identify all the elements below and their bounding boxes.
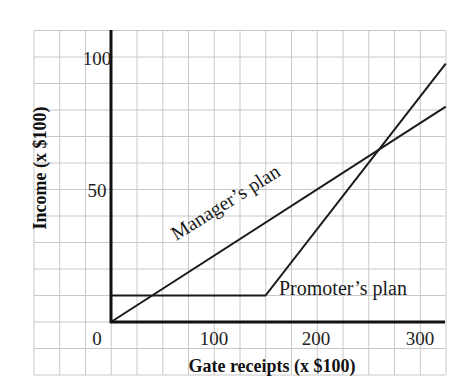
y-axis-label: Income (x $100) — [30, 107, 51, 230]
x-tick-0: 0 — [92, 328, 102, 349]
y-tick-50: 50 — [88, 180, 107, 201]
managers-plan-label: Manager’s plan — [167, 160, 285, 246]
x-tick-100: 100 — [200, 328, 229, 349]
promoters-plan-label: Promoter’s plan — [279, 277, 407, 300]
y-tick-100: 100 — [83, 48, 112, 69]
x-tick-300: 300 — [406, 328, 435, 349]
break-even-chart: 100 50 0 100 200 300 Gate receipts (x $1… — [0, 0, 469, 391]
x-axis-label: Gate receipts (x $100) — [188, 356, 355, 377]
x-tick-200: 200 — [302, 328, 331, 349]
